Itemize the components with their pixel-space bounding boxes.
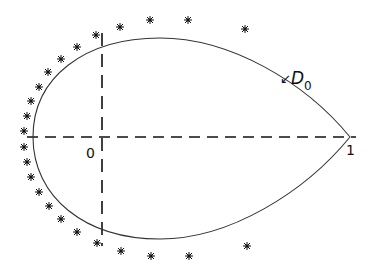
asterisk-point [241, 25, 249, 33]
one-label: 1 [346, 142, 355, 158]
asterisk-point [147, 252, 155, 260]
asterisk-point [73, 43, 81, 51]
arrow-icon: ↙ [280, 71, 291, 86]
asterisk-point [57, 215, 65, 223]
asterisk-point [27, 97, 35, 105]
asterisk-point [185, 252, 193, 260]
asterisk-point [184, 16, 192, 24]
asterisk-point [93, 239, 101, 247]
asterisk-points [20, 16, 251, 260]
asterisk-point [92, 31, 100, 39]
asterisk-point [23, 158, 31, 166]
domain-subscript: 0 [304, 79, 312, 93]
asterisk-point [20, 127, 28, 135]
asterisk-point [35, 83, 43, 91]
asterisk-point [20, 143, 28, 151]
asterisk-point [35, 188, 43, 196]
domain-letter: D [291, 68, 304, 88]
asterisk-point [45, 202, 53, 210]
asterisk-point [146, 16, 154, 24]
asterisk-point [243, 242, 251, 250]
asterisk-point [117, 247, 125, 255]
origin-label: 0 [86, 145, 95, 161]
asterisk-point [73, 228, 81, 236]
domain-label: ↙ D 0 [280, 68, 312, 93]
asterisk-point [27, 173, 35, 181]
asterisk-point [116, 23, 124, 31]
diagram-canvas: 0 1 ↙ D 0 [0, 0, 376, 276]
asterisk-point [23, 112, 31, 120]
asterisk-point [57, 55, 65, 63]
asterisk-point [44, 68, 52, 76]
